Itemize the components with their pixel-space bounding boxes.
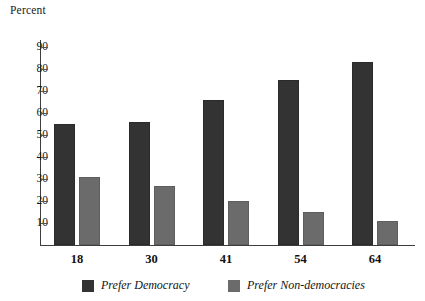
bar [154, 186, 175, 245]
y-tick-mark [41, 113, 48, 114]
y-tick-mark [41, 135, 48, 136]
legend-swatch-icon [82, 280, 94, 292]
legend-label: Prefer Non-democracies [247, 278, 365, 293]
x-axis-label: 30 [122, 252, 182, 267]
bar [54, 124, 75, 245]
bar [129, 122, 150, 245]
legend-swatch-icon [228, 280, 240, 292]
y-tick-mark [41, 91, 48, 92]
x-axis-label: 18 [47, 252, 107, 267]
bar [352, 62, 373, 245]
x-axis-label: 54 [271, 252, 331, 267]
legend-item: Prefer Democracy [82, 278, 190, 293]
legend-label: Prefer Democracy [101, 278, 190, 293]
bar [228, 201, 249, 245]
plot-area: 102030405060708090 1830415464 [0, 0, 425, 301]
y-tick-mark [41, 223, 48, 224]
y-tick-mark [41, 157, 48, 158]
x-axis-label: 41 [196, 252, 256, 267]
bar [203, 100, 224, 245]
chart-legend: Prefer DemocracyPrefer Non-democracies [0, 276, 425, 298]
bar-chart: Percent 102030405060708090 1830415464 Pr… [0, 0, 425, 301]
y-tick-mark [41, 47, 48, 48]
bar [377, 221, 398, 245]
bar [303, 212, 324, 245]
bar [278, 80, 299, 245]
x-axis-label: 64 [345, 252, 405, 267]
y-tick-mark [41, 201, 48, 202]
bar [79, 177, 100, 245]
y-tick-mark [41, 69, 48, 70]
legend-item: Prefer Non-democracies [228, 278, 365, 293]
y-tick-mark [41, 179, 48, 180]
